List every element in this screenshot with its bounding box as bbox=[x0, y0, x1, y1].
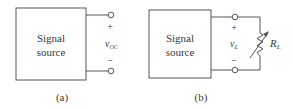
terminal-top-b bbox=[232, 14, 238, 20]
panel-b: Signal source + vL − RL (b) bbox=[149, 10, 281, 104]
minus-sign-b: − bbox=[231, 55, 237, 66]
plus-sign-b: + bbox=[231, 22, 237, 33]
load-label-b: RL bbox=[269, 37, 281, 51]
variable-arrow-head-icon bbox=[263, 31, 269, 37]
panel-a: Signal source + vOC − (a) bbox=[16, 8, 119, 104]
plus-sign-a: + bbox=[107, 21, 113, 32]
block-label-b-line2: source bbox=[166, 46, 195, 58]
voltage-label-b: vL bbox=[230, 38, 238, 51]
signal-source-block-b bbox=[149, 10, 211, 78]
terminal-top-a bbox=[108, 12, 114, 18]
caption-b: (b) bbox=[195, 91, 208, 104]
block-label-a-line2: source bbox=[37, 46, 66, 58]
caption-a: (a) bbox=[56, 91, 69, 104]
circuit-diagram: Signal source + vOC − (a) Signal source … bbox=[0, 0, 293, 109]
block-label-a-line1: Signal bbox=[37, 32, 65, 44]
voltage-label-a: vOC bbox=[105, 38, 119, 50]
block-label-b-line1: Signal bbox=[166, 32, 194, 44]
minus-sign-a: − bbox=[107, 55, 113, 66]
terminal-bottom-b bbox=[232, 67, 238, 73]
terminal-bottom-a bbox=[108, 68, 114, 74]
signal-source-block-a bbox=[16, 8, 86, 80]
